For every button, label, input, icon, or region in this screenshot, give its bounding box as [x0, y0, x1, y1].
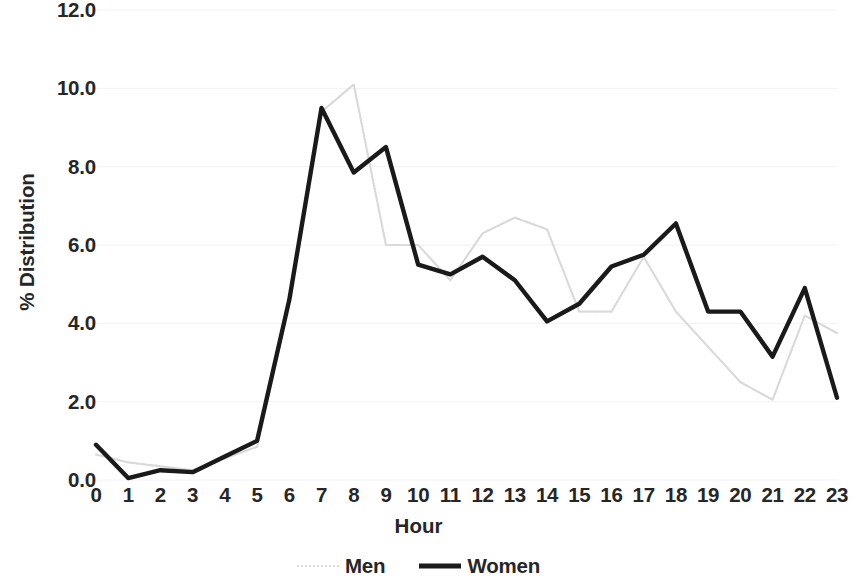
y-axis-tick-label: 4.0 [24, 311, 96, 335]
y-axis-tick-label: 6.0 [24, 233, 96, 257]
series-line-men [96, 84, 837, 470]
legend-item-women[interactable]: Women [419, 554, 540, 578]
legend-label: Men [345, 554, 385, 578]
plot-svg [96, 10, 837, 480]
legend-label: Women [467, 554, 540, 578]
legend-item-men[interactable]: Men [297, 554, 385, 578]
legend-swatch-icon [419, 559, 461, 573]
chart-legend: MenWomen [0, 551, 837, 581]
y-axis-tick-label: 10.0 [24, 76, 96, 100]
x-axis-tick-label: 23 [817, 483, 853, 507]
series-line-women [96, 108, 837, 478]
legend-swatch-icon [297, 559, 339, 573]
y-axis-tick-label: 12.0 [24, 0, 96, 22]
series-lines [96, 84, 837, 478]
plot-area [96, 10, 837, 480]
y-axis-tick-label: 8.0 [24, 155, 96, 179]
gridlines [96, 10, 837, 480]
y-axis-tick-label: 2.0 [24, 390, 96, 414]
x-axis-title: Hour [0, 514, 837, 538]
x-axis-tick-labels: 01234567891011121314151617181920212223 [0, 483, 837, 509]
